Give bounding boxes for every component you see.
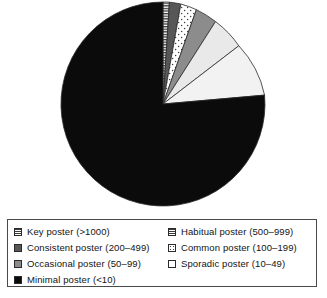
hstripe-swatch-icon [14, 228, 22, 236]
white-swatch-icon [168, 260, 176, 268]
pie-slice-minimal-poster[interactable] [61, 2, 265, 206]
legend-item-label: Habitual poster (500–999) [181, 226, 293, 237]
darkgray-swatch-icon [14, 244, 22, 252]
pie-chart-figure: Key poster (>1000) Consistent poster (20… [0, 0, 327, 298]
legend-column-right: Habitual poster (500–999) Common poster … [168, 224, 314, 272]
medgray-swatch-icon [14, 260, 22, 268]
legend-item-habitual-poster[interactable]: Habitual poster (500–999) [168, 224, 314, 239]
legend-item-key-poster[interactable]: Key poster (>1000) [14, 224, 166, 239]
legend-item-label: Common poster (100–199) [181, 242, 297, 253]
legend-item-label: Occasional poster (50–99) [27, 258, 141, 269]
black-swatch-icon [14, 276, 22, 284]
legend-item-label: Consistent poster (200–499) [27, 242, 150, 253]
pie-plot-area [0, 0, 327, 213]
legend-item-occasional-poster[interactable]: Occasional poster (50–99) [14, 256, 166, 271]
pie-svg [0, 0, 327, 213]
legend-item-label: Key poster (>1000) [27, 226, 110, 237]
legend-item-minimal-poster[interactable]: Minimal poster (<10) [14, 272, 166, 287]
chart-legend: Key poster (>1000) Consistent poster (20… [7, 219, 317, 287]
dots-swatch-icon [168, 244, 176, 252]
legend-item-consistent-poster[interactable]: Consistent poster (200–499) [14, 240, 166, 255]
legend-column-left: Key poster (>1000) Consistent poster (20… [14, 224, 166, 288]
legend-item-label: Minimal poster (<10) [27, 274, 116, 285]
legend-item-sporadic-poster[interactable]: Sporadic poster (10–49) [168, 256, 314, 271]
hstripe-swatch-icon [168, 228, 176, 236]
legend-item-common-poster[interactable]: Common poster (100–199) [168, 240, 314, 255]
legend-item-label: Sporadic poster (10–49) [181, 258, 285, 269]
